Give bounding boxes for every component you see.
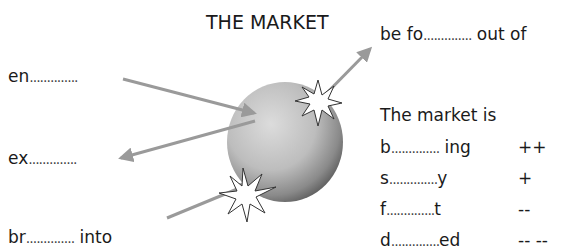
word-suffix: t [434,199,441,219]
word-forced-out: be fo.............. out of [380,26,526,43]
blank: .............. [391,140,439,156]
word-suffix: out of [471,24,526,44]
word-prefix: be fo [380,24,423,44]
word-prefix: en [8,66,29,86]
state-symbol: ++ [518,139,547,156]
state-row: b.............. ing [380,139,471,156]
blank: .............. [26,230,74,246]
word-prefix: br [8,227,26,247]
state-symbol: + [518,170,532,187]
state-symbol: -- [518,201,530,218]
state-symbol: -- -- [518,232,548,249]
blank: .............. [389,171,437,187]
word-suffix: into [74,227,112,247]
word-exit: ex.............. [8,150,77,167]
blank: .............. [386,202,434,218]
blank: .............. [29,69,77,85]
word-prefix: b [380,137,391,157]
state-row: d..............ed [380,232,460,249]
blank: .............. [423,27,471,43]
word-enter: en.............. [8,68,78,85]
market-heading: The market is [380,107,496,124]
word-prefix: s [380,168,389,188]
state-row: f..............t [380,201,441,218]
word-break-into: br.............. into [8,229,112,246]
word-prefix: ex [8,148,28,168]
page-title: THE MARKET [206,11,329,33]
word-suffix: ed [439,230,460,250]
word-suffix: y [437,168,447,188]
arrow-enter [123,79,254,113]
word-prefix: d [380,230,391,250]
blank: .............. [28,151,76,167]
blank: .............. [391,233,439,249]
word-suffix: ing [439,137,471,157]
state-row: s..............y [380,170,447,187]
